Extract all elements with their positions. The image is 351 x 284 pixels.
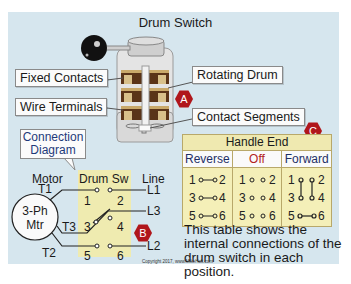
- svg-text:2: 2: [269, 173, 276, 187]
- reverse-connections: 12 34 56: [183, 168, 233, 226]
- table-header: Handle End: [183, 135, 331, 151]
- svg-text:5: 5: [239, 209, 246, 223]
- table-description: This table shows the internal connection…: [184, 223, 344, 279]
- forward-connections: 12 34 56: [282, 168, 331, 226]
- motor-name-line2: Mtr: [18, 218, 52, 232]
- line-l2: L2: [147, 239, 160, 253]
- contact-5: 5: [84, 249, 91, 263]
- contact-4: 4: [117, 220, 124, 234]
- label-contact-segments: Contact Segments: [192, 108, 305, 126]
- svg-text:2: 2: [219, 173, 226, 187]
- table-body: 12 34 56 12 34 56: [183, 168, 331, 226]
- copyright: Copyright 2017, www.MikeHolt.com: [142, 259, 213, 264]
- contact-6: 6: [117, 249, 124, 263]
- motor-name-line1: 3-Ph: [18, 204, 52, 218]
- svg-text:2: 2: [318, 173, 325, 187]
- svg-text:1: 1: [239, 173, 246, 187]
- svg-text:3: 3: [288, 191, 295, 205]
- contact-1: 1: [84, 194, 91, 208]
- svg-text:3: 3: [239, 191, 246, 205]
- terminal-t3: T3: [62, 220, 76, 234]
- connection-diagram-callout: Connection Diagram: [20, 129, 86, 159]
- svg-text:6: 6: [269, 209, 276, 223]
- line-l3: L3: [147, 204, 160, 218]
- svg-text:3: 3: [189, 191, 196, 205]
- svg-text:6: 6: [318, 209, 325, 223]
- contact-3: 3: [84, 220, 91, 234]
- column-forward: Forward: [282, 151, 331, 168]
- svg-text:4: 4: [318, 191, 325, 205]
- drum-sw-label: Drum Sw: [79, 172, 128, 186]
- terminal-t1: T1: [38, 182, 52, 196]
- svg-text:5: 5: [189, 209, 196, 223]
- svg-text:4: 4: [269, 191, 276, 205]
- connection-diagram-line2: Diagram: [21, 144, 85, 157]
- contact-2: 2: [117, 194, 124, 208]
- off-connections: 12 34 56: [233, 168, 283, 226]
- svg-text:4: 4: [219, 191, 226, 205]
- svg-text:6: 6: [219, 209, 226, 223]
- svg-text:5: 5: [288, 209, 295, 223]
- table-column-headers: Reverse Off Forward: [183, 151, 331, 168]
- label-fixed-contacts: Fixed Contacts: [15, 69, 108, 87]
- label-rotating-drum: Rotating Drum: [192, 66, 283, 84]
- svg-text:1: 1: [288, 173, 295, 187]
- svg-text:1: 1: [189, 173, 196, 187]
- column-reverse: Reverse: [183, 151, 233, 168]
- connection-table: Handle End Reverse Off Forward 12 34 56: [182, 134, 332, 227]
- label-wire-terminals: Wire Terminals: [15, 98, 107, 116]
- terminal-t2: T2: [42, 246, 56, 260]
- line-l1: L1: [147, 183, 160, 197]
- column-off: Off: [233, 151, 283, 168]
